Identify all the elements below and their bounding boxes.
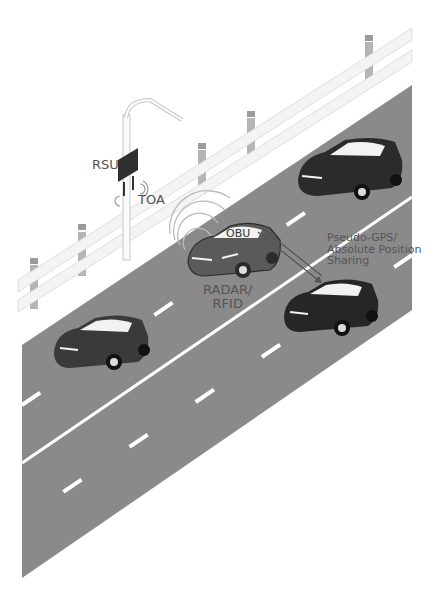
- pseudo-label-line1: Pseudo-GPS/: [327, 232, 421, 244]
- obu-label: OBU: [226, 228, 250, 240]
- radar-label-line1: RADAR/: [203, 283, 253, 297]
- pseudo-gps-label: Pseudo-GPS/ Absolute Position Sharing: [327, 232, 421, 267]
- radar-label-line2: RFID: [203, 297, 253, 311]
- radar-rfid-label: RADAR/ RFID: [203, 283, 253, 310]
- rsu-label: RSU: [92, 158, 119, 172]
- pseudo-label-line3: Sharing: [327, 255, 421, 267]
- toa-label: TOA: [138, 193, 165, 207]
